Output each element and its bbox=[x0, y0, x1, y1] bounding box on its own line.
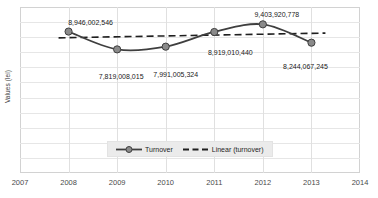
legend-label-turnover: Turnover bbox=[145, 146, 173, 153]
x-axis-tick-label: 2007 bbox=[12, 178, 29, 187]
data-point-marker bbox=[162, 43, 169, 50]
data-point-marker bbox=[259, 21, 266, 28]
trendline-path bbox=[59, 33, 326, 38]
data-point-label: 8,244,067,245 bbox=[283, 63, 328, 70]
data-point-marker bbox=[211, 28, 218, 35]
y-axis-label: Values (lei) bbox=[0, 0, 16, 172]
x-axis-tick-label: 2010 bbox=[157, 178, 174, 187]
data-point-label: 9,403,920,778 bbox=[254, 11, 299, 18]
x-axis-tick-label: 2008 bbox=[60, 178, 77, 187]
turnover-line-chart: Values (lei) 200720082009201020112012201… bbox=[0, 0, 378, 198]
data-point-label: 8,919,010,440 bbox=[208, 49, 253, 56]
legend-item-linear-trend[interactable]: Linear (turnover) bbox=[183, 145, 264, 154]
legend-item-turnover[interactable]: Turnover bbox=[116, 145, 173, 154]
data-point-marker bbox=[114, 46, 121, 53]
turnover-markers bbox=[65, 21, 315, 53]
x-axis-tick-label: 2014 bbox=[352, 178, 369, 187]
y-axis-label-text: Values (lei) bbox=[5, 69, 12, 102]
x-axis-tick-label: 2012 bbox=[255, 178, 272, 187]
data-point-label: 7,819,008,015 bbox=[99, 73, 144, 80]
legend-line-marker-icon bbox=[116, 145, 142, 154]
data-point-label: 7,991,005,324 bbox=[153, 71, 198, 78]
x-axis-tick-label: 2011 bbox=[206, 178, 222, 187]
legend-dashed-line-icon bbox=[183, 145, 209, 154]
x-axis-tick-label: 2009 bbox=[109, 178, 126, 187]
data-point-marker bbox=[308, 39, 315, 46]
data-point-marker bbox=[65, 28, 72, 35]
x-axis-tick-label: 2013 bbox=[303, 178, 320, 187]
chart-legend: Turnover Linear (turnover) bbox=[107, 141, 273, 157]
legend-label-linear-trend: Linear (turnover) bbox=[212, 146, 264, 153]
data-point-label: 8,946,002,546 bbox=[68, 19, 113, 26]
